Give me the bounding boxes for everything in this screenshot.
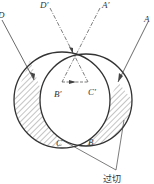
- label-b-prime: B′: [54, 89, 62, 99]
- hatched-region-left: [14, 60, 62, 148]
- line-d-prime: [50, 8, 88, 82]
- label-d: D: [0, 10, 5, 20]
- label-a: A: [143, 14, 150, 24]
- label-d-prime: D′: [39, 0, 49, 10]
- label-overcut: 过切: [103, 173, 121, 184]
- label-b: B: [88, 137, 94, 147]
- diagram-svg: D D′ A′ A B′ C′ C B 过切: [0, 0, 154, 184]
- arrow-bc-icon: [69, 80, 76, 84]
- ray-a: [118, 22, 148, 82]
- line-a-prime: [62, 8, 100, 82]
- label-a-prime: A′: [101, 0, 110, 10]
- ray-d: [2, 20, 34, 80]
- label-c: C: [56, 138, 63, 148]
- label-c-prime: C′: [88, 87, 97, 97]
- diagram-canvas: D D′ A′ A B′ C′ C B 过切: [0, 0, 154, 184]
